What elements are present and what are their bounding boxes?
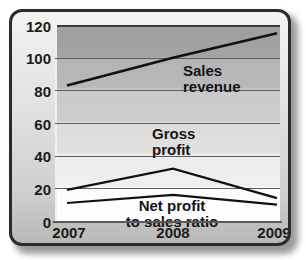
annotation-gross-profit: Gross profit xyxy=(152,126,195,158)
y-axis: 120 100 80 60 40 20 0 xyxy=(12,25,51,221)
x-tick-2009: 2009 xyxy=(244,225,291,240)
series-lines xyxy=(55,25,280,221)
x-tick-2008: 2008 xyxy=(143,225,203,240)
y-tick-120: 120 xyxy=(15,19,51,34)
y-tick-20: 20 xyxy=(15,182,51,197)
plot-area: Sales revenue Gross profit Net profit to… xyxy=(55,25,280,221)
chart-frame: 120 100 80 60 40 20 0 Sales revenue xyxy=(9,9,291,246)
series-line-gross-profit xyxy=(67,169,277,198)
y-tick-100: 100 xyxy=(15,51,51,66)
x-tick-2007: 2007 xyxy=(39,225,99,240)
y-tick-40: 40 xyxy=(15,149,51,164)
series-line-sales-revenue xyxy=(67,33,277,85)
x-axis-baseline xyxy=(53,221,282,223)
y-tick-80: 80 xyxy=(15,84,51,99)
y-tick-60: 60 xyxy=(15,117,51,132)
x-axis: 2007 2008 2009 xyxy=(55,225,280,246)
annotation-sales-revenue: Sales revenue xyxy=(183,63,241,95)
chart-figure: 120 100 80 60 40 20 0 Sales revenue xyxy=(0,0,304,260)
